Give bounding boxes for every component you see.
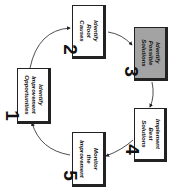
step-2-line-3: Causes xyxy=(78,20,85,41)
step-3-number: 3 xyxy=(122,64,141,80)
step-1-line-1: Identify xyxy=(37,75,44,114)
step-1-line-2: Improvement xyxy=(30,75,37,114)
step-1-label: Identify Improvement Opportunities xyxy=(23,75,44,114)
step-5-line-2: the xyxy=(85,140,92,178)
step-5-number: 5 xyxy=(61,168,80,184)
step-2-label: Identify Root Causes xyxy=(78,20,99,41)
step-1-number: 1 xyxy=(3,108,22,124)
step-4-line-1: Implement xyxy=(153,119,160,149)
arrow-3-to-4 xyxy=(150,82,153,107)
step-3-label: Identify Possible Solutions xyxy=(140,39,161,66)
arrow-5-to-1 xyxy=(32,123,70,155)
step-5-label: Monitor the Improvement xyxy=(78,140,99,178)
step-2-number: 2 xyxy=(61,42,80,58)
arrow-2-to-3 xyxy=(108,32,132,45)
step-2-line-2: Root xyxy=(85,20,92,41)
improvement-cycle-diagram: Identify Root Causes 2 Identify Possible… xyxy=(0,0,176,195)
step-3-line-2: Possible xyxy=(147,39,154,66)
step-3-line-1: Identify xyxy=(154,39,161,66)
step-2-line-1: Identify xyxy=(92,20,99,41)
step-5-line-1: Monitor xyxy=(92,140,99,178)
step-4-number: 4 xyxy=(123,142,142,158)
step-4-line-2: Best xyxy=(146,119,153,149)
step-1-line-3: Opportunities xyxy=(23,75,30,114)
step-3-line-3: Solutions xyxy=(140,39,147,66)
